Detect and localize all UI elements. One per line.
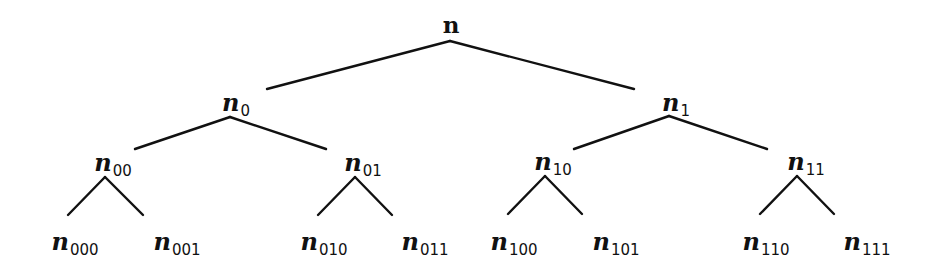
node-n111: n111 xyxy=(843,230,890,254)
edge-n1-n10 xyxy=(574,116,669,149)
node-n101: n101 xyxy=(592,230,639,254)
binary-tree-diagram: n n0 n1 n00 n01 n10 n11 n000 n001 n010 n… xyxy=(0,0,932,270)
node-n100: n100 xyxy=(490,230,537,254)
node-n011: n011 xyxy=(401,230,448,254)
edge-n-n1 xyxy=(450,41,634,89)
edge-n00-n001 xyxy=(105,177,143,215)
node-n001: n001 xyxy=(153,230,200,254)
edge-n0-n00 xyxy=(135,117,230,149)
edge-n-n0 xyxy=(267,41,450,89)
node-n11: n11 xyxy=(787,150,825,174)
edge-n1-n11 xyxy=(669,116,767,149)
node-n01: n01 xyxy=(344,151,382,175)
node-n1: n1 xyxy=(662,91,690,115)
node-n10: n10 xyxy=(534,150,572,174)
node-n000: n000 xyxy=(51,230,98,254)
edge-n11-n111 xyxy=(797,176,834,214)
edge-n10-n101 xyxy=(545,176,582,214)
edge-n10-n100 xyxy=(508,176,545,214)
edge-n0-n01 xyxy=(230,117,326,149)
edge-n00-n000 xyxy=(68,177,105,215)
node-n110: n110 xyxy=(742,230,789,254)
edge-n01-n011 xyxy=(355,177,392,215)
node-n: n xyxy=(443,13,460,36)
edge-n01-n010 xyxy=(318,177,355,215)
tree-edges xyxy=(0,0,932,270)
node-n0: n0 xyxy=(222,91,250,115)
node-n00: n00 xyxy=(94,151,132,175)
edge-n11-n110 xyxy=(760,176,797,214)
node-n010: n010 xyxy=(300,230,347,254)
